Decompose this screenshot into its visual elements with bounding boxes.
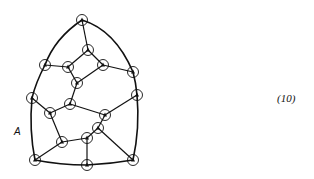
graph-edge: [98, 115, 105, 128]
region-label-a: A: [14, 126, 21, 137]
graph-edge: [32, 98, 50, 113]
graph-node: [77, 15, 88, 26]
graph-node: [57, 137, 68, 148]
graph-edge: [98, 128, 133, 160]
graph-edge: [45, 65, 68, 67]
graph-node: [98, 60, 109, 71]
graph-node: [128, 67, 139, 78]
graph-node: [72, 78, 83, 89]
equation-number: (10): [277, 92, 295, 104]
graph-edge: [50, 113, 62, 142]
graph-edge: [35, 142, 62, 160]
graph-nodes: [27, 15, 143, 171]
graph-edge: [70, 83, 77, 104]
graph-node: [93, 123, 104, 134]
graph-node: [100, 110, 111, 121]
graph-edge: [68, 50, 88, 67]
planar-graph-diagram: [0, 0, 314, 179]
graph-node: [65, 99, 76, 110]
graph-edge: [77, 65, 103, 83]
graph-edge: [88, 50, 103, 65]
graph-node: [83, 45, 94, 56]
graph-node: [45, 108, 56, 119]
